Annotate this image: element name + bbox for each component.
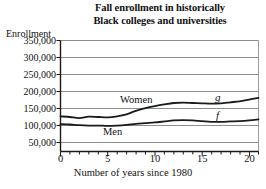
series-label-f: f [216,110,219,121]
x-tick-label: 20 [237,153,263,165]
series-label-women: Women [120,94,152,105]
x-tick-label: 0 [48,153,74,165]
x-tick-label: 5 [95,153,121,165]
x-tick-label: 10 [142,153,168,165]
x-axis-label: Number of years since 1980 [0,167,266,179]
x-tick-label: 15 [189,153,215,165]
series-label-g: g [215,92,221,103]
chart-figure: Fall enrollment in historically Black co… [0,0,266,189]
series-label-men: Men [103,126,122,137]
